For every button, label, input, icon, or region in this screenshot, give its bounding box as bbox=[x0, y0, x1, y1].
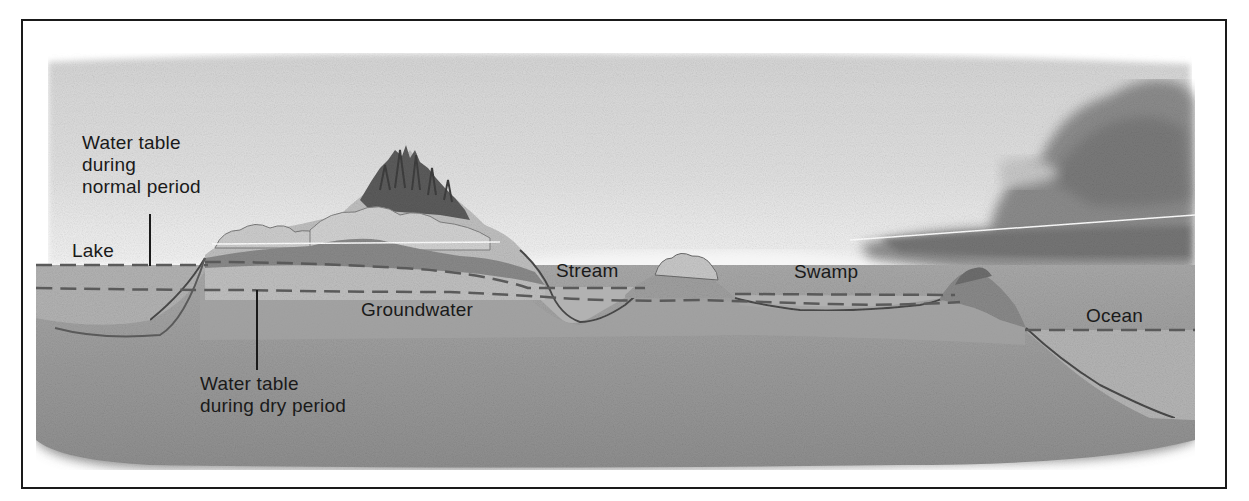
label-groundwater: Groundwater bbox=[361, 299, 473, 321]
leader-line-dry bbox=[256, 290, 258, 370]
label-ocean: Ocean bbox=[1086, 305, 1143, 327]
label-water-table-dry: Water table during dry period bbox=[200, 373, 346, 417]
leader-line-normal bbox=[149, 214, 151, 266]
cross-section-illustration bbox=[0, 0, 1249, 501]
label-stream: Stream bbox=[556, 260, 618, 282]
label-water-table-normal: Water table during normal period bbox=[82, 132, 201, 198]
label-lake: Lake bbox=[72, 240, 114, 262]
label-swamp: Swamp bbox=[794, 261, 858, 283]
